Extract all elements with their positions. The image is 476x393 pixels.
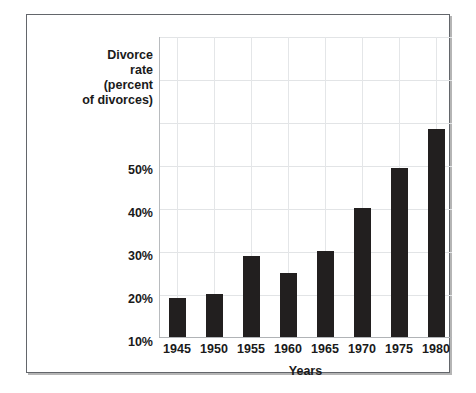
gridline-horizontal — [159, 252, 452, 253]
bar-1950 — [206, 294, 223, 337]
gridline-horizontal — [159, 123, 452, 124]
gridline-horizontal — [159, 295, 452, 296]
gridline-horizontal — [159, 209, 452, 210]
bar-1960 — [280, 273, 297, 337]
chart-figure: Divorce rate (percent of divorces) 50% 4… — [0, 0, 476, 393]
x-axis-tick-labels: 1945 1950 1955 1960 1965 1970 1975 1980 — [159, 343, 452, 361]
chart-frame: Divorce rate (percent of divorces) 50% 4… — [26, 14, 450, 373]
bar-1980 — [428, 129, 445, 337]
bar-1970 — [354, 208, 371, 337]
y-axis-tick-labels: 50% 40% 30% 20% 10% — [89, 37, 153, 337]
bar-1965 — [317, 251, 334, 337]
gridline-vertical — [177, 37, 178, 337]
y-tick-label: 50% — [93, 164, 153, 177]
x-axis-title: Years — [159, 365, 452, 378]
y-tick-label: 40% — [93, 207, 153, 220]
bar-1945 — [169, 298, 186, 337]
gridline-horizontal — [159, 80, 452, 81]
gridline-horizontal — [159, 37, 452, 38]
bar-1975 — [391, 168, 408, 337]
x-axis-line — [159, 337, 452, 338]
y-tick-label: 10% — [93, 336, 153, 349]
y-tick-label: 20% — [93, 293, 153, 306]
gridline-horizontal — [159, 166, 452, 167]
x-tick-label: 1980 — [414, 343, 458, 356]
y-tick-label: 30% — [93, 250, 153, 263]
plot-area — [159, 37, 452, 337]
bar-1955 — [243, 256, 260, 337]
y-axis-line — [159, 37, 160, 338]
gridline-vertical — [214, 37, 215, 337]
